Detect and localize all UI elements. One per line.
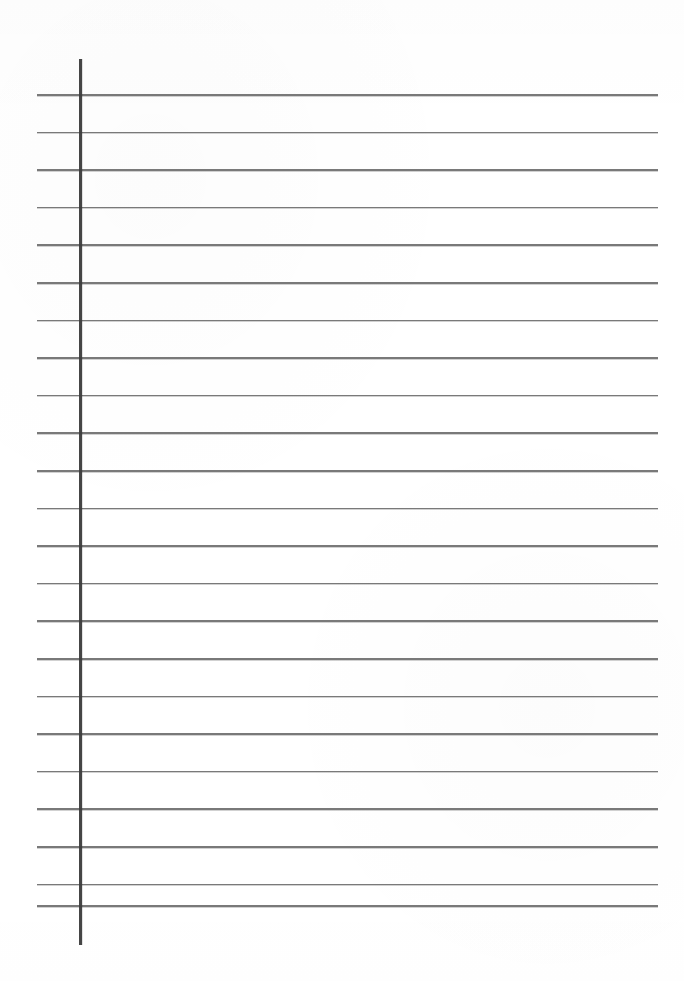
rule-line bbox=[37, 808, 658, 810]
rule-line bbox=[37, 132, 658, 134]
rule-line bbox=[37, 884, 658, 886]
rule-line bbox=[37, 658, 658, 660]
rule-line bbox=[37, 244, 658, 246]
rule-line bbox=[37, 771, 658, 773]
rule-line bbox=[37, 320, 658, 322]
rule-line bbox=[37, 620, 658, 622]
margin-rule-line bbox=[79, 59, 82, 945]
paper-texture-overlay bbox=[0, 0, 684, 981]
rule-line bbox=[37, 583, 658, 585]
rule-line bbox=[37, 94, 658, 96]
rule-line bbox=[37, 207, 658, 209]
rule-line bbox=[37, 508, 658, 510]
rule-line bbox=[37, 395, 658, 397]
rule-line bbox=[37, 282, 658, 284]
rule-line bbox=[37, 470, 658, 472]
rule-line bbox=[37, 545, 658, 547]
rule-line bbox=[37, 432, 658, 434]
notebook-page: Blank scanned sheet of ruled (lined) not… bbox=[0, 0, 684, 981]
rule-line bbox=[37, 357, 658, 359]
rule-line bbox=[37, 169, 658, 171]
rule-line bbox=[37, 905, 658, 907]
rule-line bbox=[37, 846, 658, 848]
rule-line bbox=[37, 696, 658, 698]
rule-line bbox=[37, 733, 658, 735]
